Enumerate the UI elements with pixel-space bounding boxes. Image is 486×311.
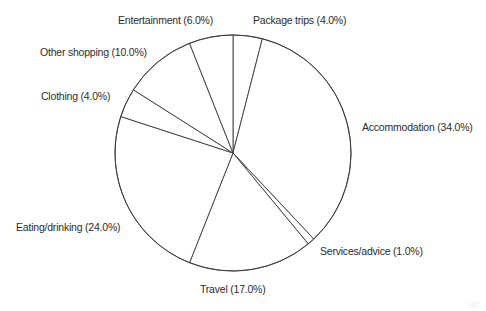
pie-label-other-shopping: Other shopping (10.0%) <box>40 47 147 59</box>
pie-label-services-advice: Services/advice (1.0%) <box>320 246 423 258</box>
pie-label-clothing: Clothing (4.0%) <box>41 91 110 103</box>
pie-chart-figure: Package trips (4.0%)Accommodation (34.0%… <box>0 0 486 311</box>
pie-label-eating-drinking: Eating/drinking (24.0%) <box>16 222 120 234</box>
pie-label-entertainment: Entertainment (6.0%) <box>118 15 213 27</box>
pie-label-accommodation: Accommodation (34.0%) <box>362 122 473 134</box>
pie-label-package-trips: Package trips (4.0%) <box>253 15 346 27</box>
pie-label-travel: Travel (17.0%) <box>200 284 266 296</box>
